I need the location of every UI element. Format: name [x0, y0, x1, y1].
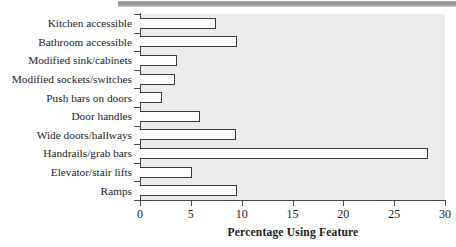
bar [140, 36, 237, 47]
x-axis-tick-label: 25 [379, 207, 409, 222]
x-axis-title: Percentage Using Feature [140, 226, 446, 238]
bar-row [140, 88, 162, 107]
bar [140, 18, 216, 29]
y-axis-label: Handrails/grab bars [0, 144, 137, 163]
y-axis-label: Modified sockets/switches [0, 70, 137, 89]
x-axis-tick [394, 200, 395, 206]
bar-row [140, 126, 236, 145]
y-axis-label: Wide doors/hallways [0, 126, 137, 145]
x-axis-tick-label: 20 [328, 207, 358, 222]
x-axis-tick [140, 200, 141, 206]
x-axis-tick-label: 0 [125, 207, 155, 222]
y-axis-label: Door handles [0, 107, 137, 126]
x-axis-tick-label: 30 [430, 207, 456, 222]
bar [140, 148, 428, 159]
y-axis-label: Elevator/stair lifts [0, 163, 137, 182]
x-axis-tick [343, 200, 344, 206]
bar [140, 74, 175, 85]
bar-row [140, 51, 177, 70]
x-axis-tick-label: 15 [278, 207, 308, 222]
bar-row [140, 33, 237, 52]
bar [140, 55, 177, 66]
x-axis-tick [293, 200, 294, 206]
x-axis-tick-label: 10 [227, 207, 257, 222]
bar-chart-figure: Kitchen accessibleBathroom accessibleMod… [0, 0, 456, 247]
x-axis-tick [242, 200, 243, 206]
x-axis-tick-label: 5 [176, 207, 206, 222]
bar-row [140, 163, 192, 182]
x-axis-tick [445, 200, 446, 206]
bar-row [140, 14, 216, 33]
y-axis-label: Ramps [0, 181, 137, 200]
bar-row [140, 107, 200, 126]
bar [140, 167, 192, 178]
bar [140, 111, 200, 122]
bar-row [140, 181, 237, 200]
bar [140, 129, 236, 140]
bar [140, 92, 162, 103]
y-axis-label: Bathroom accessible [0, 33, 137, 52]
x-axis-tick [191, 200, 192, 206]
bar-row [140, 144, 428, 163]
y-axis-label: Push bars on doors [0, 88, 137, 107]
y-axis-label: Modified sink/cabinets [0, 51, 137, 70]
bar-row [140, 70, 175, 89]
y-axis-label: Kitchen accessible [0, 14, 137, 33]
bar [140, 185, 237, 196]
